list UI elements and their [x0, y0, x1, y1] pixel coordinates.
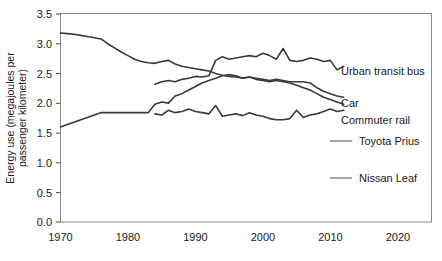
x-tick-label: 2020 — [386, 231, 410, 243]
series-label-toyota-prius: Toyota Prius — [359, 135, 420, 147]
series-label-commuter-rail: Commuter rail — [341, 114, 410, 126]
y-tick-label: 1.0 — [37, 157, 52, 169]
energy-use-line-chart: 3.5 3.0 2.5 2.0 1.5 1.0 0.5 0.0 1970 198… — [0, 0, 442, 261]
y-tick-label: 2.5 — [37, 68, 52, 80]
y-tick-label: 3.5 — [37, 8, 52, 20]
x-tick-label: 1970 — [48, 231, 72, 243]
y-tick-label: 0.0 — [37, 216, 52, 228]
y-axis-title-line1: Energy use (megajoules per — [4, 52, 16, 184]
x-tick-label: 2000 — [251, 231, 275, 243]
y-axis-title: Energy use (megajoules per passenger kil… — [4, 52, 28, 184]
y-axis-title-line2: passenger kilometer) — [16, 69, 28, 167]
x-tick-label: 1990 — [183, 231, 207, 243]
y-tick-label: 2.0 — [37, 97, 52, 109]
series-label-nissan-leaf: Nissan Leaf — [359, 172, 418, 184]
y-tick-label: 0.5 — [37, 187, 52, 199]
y-tick-label: 3.0 — [37, 38, 52, 50]
series-label-urban-transit-bus: Urban transit bus — [341, 65, 425, 77]
series-label-car: Car — [341, 97, 359, 109]
x-tick-label: 2010 — [318, 231, 342, 243]
y-tick-label: 1.5 — [37, 127, 52, 139]
x-tick-label: 1980 — [116, 231, 140, 243]
chart-svg: 3.5 3.0 2.5 2.0 1.5 1.0 0.5 0.0 1970 198… — [0, 0, 442, 261]
